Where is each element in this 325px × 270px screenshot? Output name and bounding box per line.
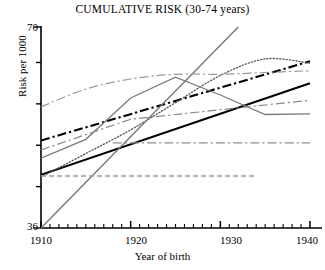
chart-container: CUMULATIVE RISK (30-74 years) Risk per 1… [0,0,325,270]
series-steep-gray-solid [41,27,238,228]
data-series-layer [41,27,310,228]
series-dotted-gray-arc [41,58,310,177]
axis-lines [34,26,322,228]
plot-area [0,0,325,270]
series-gray-zigzag-solid [41,77,310,158]
